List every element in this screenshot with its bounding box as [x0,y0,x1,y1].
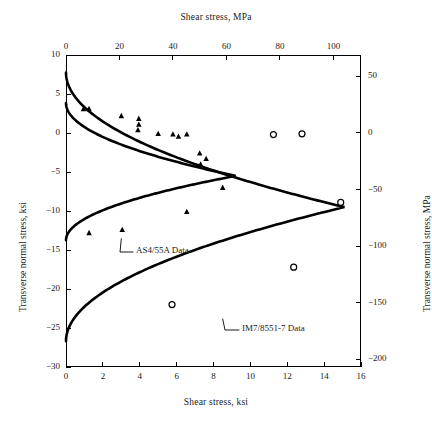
leader-line-as4 [120,239,133,252]
envelope-curve-as4 [66,103,236,240]
data-point-as4 [119,113,125,118]
data-point-as4 [198,161,204,166]
envelope-curve-im7 [66,73,344,342]
annotation-im7-label: IM7/8551-7 Data [242,323,305,333]
leader-line-im7 [223,319,239,330]
data-point-as4 [135,127,141,132]
data-point-as4 [136,116,142,121]
data-point-as4 [184,209,190,214]
data-point-im7 [299,131,305,137]
data-point-im7 [169,302,175,308]
data-point-as4 [197,150,203,155]
data-point-as4 [86,230,92,235]
data-point-as4 [203,156,209,161]
data-point-as4 [220,185,226,190]
data-point-as4 [136,121,142,126]
data-point-as4 [184,131,190,136]
plot-canvas [0,0,432,423]
data-point-as4 [176,134,182,139]
data-point-im7 [338,199,344,205]
data-point-im7 [291,264,297,270]
data-point-as4 [119,227,125,232]
chart-figure: Shear stress, MPa Shear stress, ksi Tran… [0,0,432,423]
data-point-as4 [170,131,176,136]
data-point-im7 [270,132,276,138]
data-point-as4 [155,131,161,136]
annotation-as4-label: AS4/55A Data [136,245,189,255]
